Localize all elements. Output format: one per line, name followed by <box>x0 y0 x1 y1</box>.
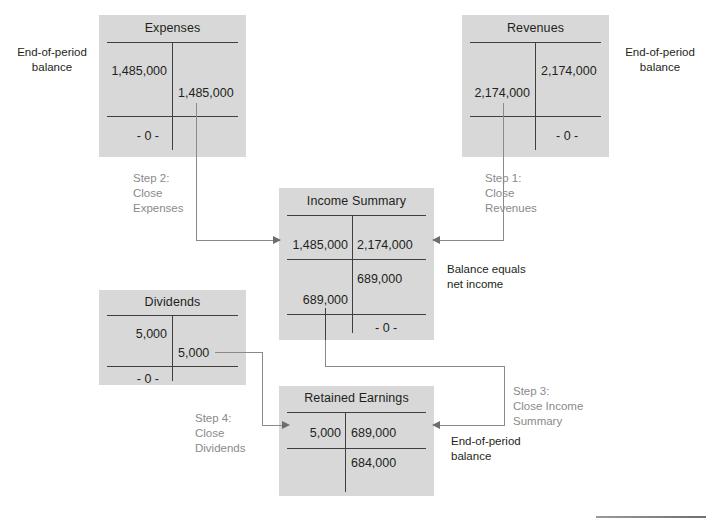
footer-rule <box>596 516 706 518</box>
step1-connector-horizontal <box>440 240 504 241</box>
dividends-credit-amount: 5,000 <box>178 346 209 360</box>
income-summary-credit-balance: 689,000 <box>357 272 402 286</box>
revenues-center-rule <box>535 42 536 150</box>
retained-earnings-credit-amount: 689,000 <box>351 426 396 440</box>
dividends-debit-amount: 5,000 <box>103 327 167 341</box>
dividends-bottom-rule <box>107 366 238 367</box>
income-summary-credit-amount: 2,174,000 <box>357 238 413 252</box>
income-summary-debit-amount: 1,485,000 <box>283 238 348 252</box>
step3-connector-horizontal-left <box>440 425 505 426</box>
revenues-bottom-rule <box>470 116 601 117</box>
step4-connector-horizontal-right <box>215 352 263 353</box>
label-balance-equals-net-income: Balance equals net income <box>447 262 577 292</box>
label-eop-balance-left: End-of-period balance <box>6 45 98 75</box>
step1-arrowhead <box>432 236 440 244</box>
step3-arrowhead <box>432 421 440 429</box>
income-summary-top-rule <box>287 215 426 216</box>
t-account-dividends: Dividends 5,000 5,000 - 0 - <box>99 290 246 385</box>
retained-earnings-debit-amount: 5,000 <box>283 426 341 440</box>
income-summary-debit-tick <box>325 308 326 340</box>
retained-earnings-top-rule <box>287 412 426 413</box>
label-eop-balance-right: End-of-period balance <box>612 45 708 75</box>
expenses-credit-amount: 1,485,000 <box>178 86 234 100</box>
dividends-center-rule <box>172 315 173 381</box>
label-eop-balance-retained: End-of-period balance <box>451 434 571 464</box>
step2-connector-horizontal <box>196 240 280 241</box>
income-summary-closing-debit: 689,000 <box>283 293 348 307</box>
step4-arrowhead <box>282 421 290 429</box>
t-account-revenues: Revenues 2,174,000 2,174,000 - 0 - <box>462 15 609 157</box>
retained-earnings-center-rule <box>345 412 346 492</box>
step2-label: Step 2: Close Expenses <box>133 171 203 216</box>
step4-label: Step 4: Close Dividends <box>195 411 269 456</box>
t-account-income-summary: Income Summary 1,485,000 2,174,000 689,0… <box>279 188 434 340</box>
diagram-canvas: Expenses 1,485,000 1,485,000 - 0 - End-o… <box>0 0 714 527</box>
expenses-bottom-rule <box>107 116 238 117</box>
step2-arrowhead <box>273 236 281 244</box>
t-account-expenses: Expenses 1,485,000 1,485,000 - 0 - <box>99 15 246 157</box>
t-account-title-revenues: Revenues <box>462 21 609 35</box>
t-account-title-dividends: Dividends <box>99 295 246 309</box>
t-account-title-income-summary: Income Summary <box>279 194 434 208</box>
step3-label: Step 3: Close Income Summary <box>513 384 611 429</box>
step3-connector-horizontal-right <box>325 366 505 367</box>
t-account-title-expenses: Expenses <box>99 21 246 35</box>
revenues-debit-amount: 2,174,000 <box>466 86 530 100</box>
expenses-center-rule <box>172 42 173 150</box>
retained-earnings-balance: 684,000 <box>351 456 396 470</box>
t-account-retained-earnings: Retained Earnings 5,000 689,000 684,000 <box>279 386 434 496</box>
step3-connector-vertical-down <box>325 340 326 367</box>
retained-earnings-bottom-rule <box>287 448 426 449</box>
dividends-balance: - 0 - <box>103 372 159 386</box>
revenues-credit-amount: 2,174,000 <box>541 64 597 78</box>
income-summary-mid-rule <box>287 259 426 260</box>
expenses-balance: - 0 - <box>103 129 159 143</box>
income-summary-bottom-rule <box>287 314 426 315</box>
t-account-title-retained-earnings: Retained Earnings <box>279 391 434 405</box>
step3-connector-vertical-down2 <box>504 366 505 426</box>
step1-label: Step 1: Close Revenues <box>485 171 565 216</box>
revenues-balance: - 0 - <box>556 129 578 143</box>
income-summary-balance: - 0 - <box>375 321 397 335</box>
expenses-debit-amount: 1,485,000 <box>103 64 167 78</box>
